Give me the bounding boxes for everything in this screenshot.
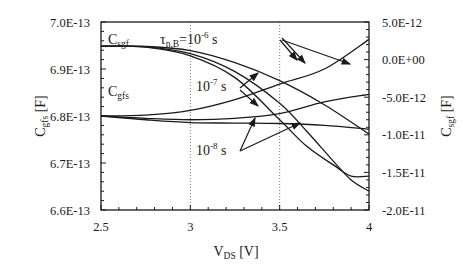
annotation-tau-1e-7: 10-7 s: [196, 77, 226, 94]
y-right-tick-label: 5.0E-12: [382, 16, 422, 30]
annotation-csgf: Csgf: [108, 32, 130, 49]
y-right-tick-label: -2.0E-11: [382, 204, 426, 218]
y-left-tick-label: 6.7E-13: [50, 157, 90, 171]
y-right-tick-label: -1.5E-11: [382, 166, 426, 180]
y-left-tick-label: 6.8E-13: [50, 110, 90, 124]
series-line-2: [101, 46, 369, 177]
tick-labels: 2.533.547.0E-136.9E-136.8E-136.7E-136.6E…: [50, 16, 426, 235]
y-axis-right-title: Csgf [F]: [439, 95, 456, 137]
y-left-tick-label: 6.9E-13: [50, 63, 90, 77]
axis-ticks: [101, 22, 369, 210]
x-tick-label: 3.5: [272, 220, 288, 234]
y-left-tick-label: 6.6E-13: [50, 204, 90, 218]
y-right-tick-label: -5.0E-12: [382, 91, 426, 105]
y-right-tick-label: -1.0E-11: [382, 128, 426, 142]
annotation-cgfs: Cgfs: [108, 84, 129, 101]
series-line-0: [101, 46, 369, 134]
y-axis-left-title: Cgfs [F]: [33, 95, 50, 137]
y-right-tick-label: 0.0E+00: [382, 53, 425, 67]
arrow-tau8-cgfs: [240, 123, 300, 151]
x-axis-title: VDS [V]: [213, 244, 258, 261]
y-left-tick-label: 7.0E-13: [50, 16, 90, 30]
annotation-tau-1e-6: τn,B=10-6 s: [160, 30, 217, 49]
x-tick-label: 4: [366, 220, 373, 234]
arrow-tau6-cgfs-rising: [282, 40, 350, 64]
arrow-tau6-csgf: [280, 40, 297, 60]
annotation-arrows: [240, 38, 350, 151]
series-lines: [101, 39, 369, 191]
arrow-tau7-csgf: [240, 73, 258, 88]
annotation-tau-1e-8: 10-8 s: [196, 141, 226, 158]
chart: 2.533.547.0E-136.9E-136.8E-136.7E-136.6E…: [0, 0, 469, 274]
x-tick-label: 3: [187, 220, 193, 234]
x-tick-label: 2.5: [93, 220, 109, 234]
plot-frame: [101, 22, 369, 210]
